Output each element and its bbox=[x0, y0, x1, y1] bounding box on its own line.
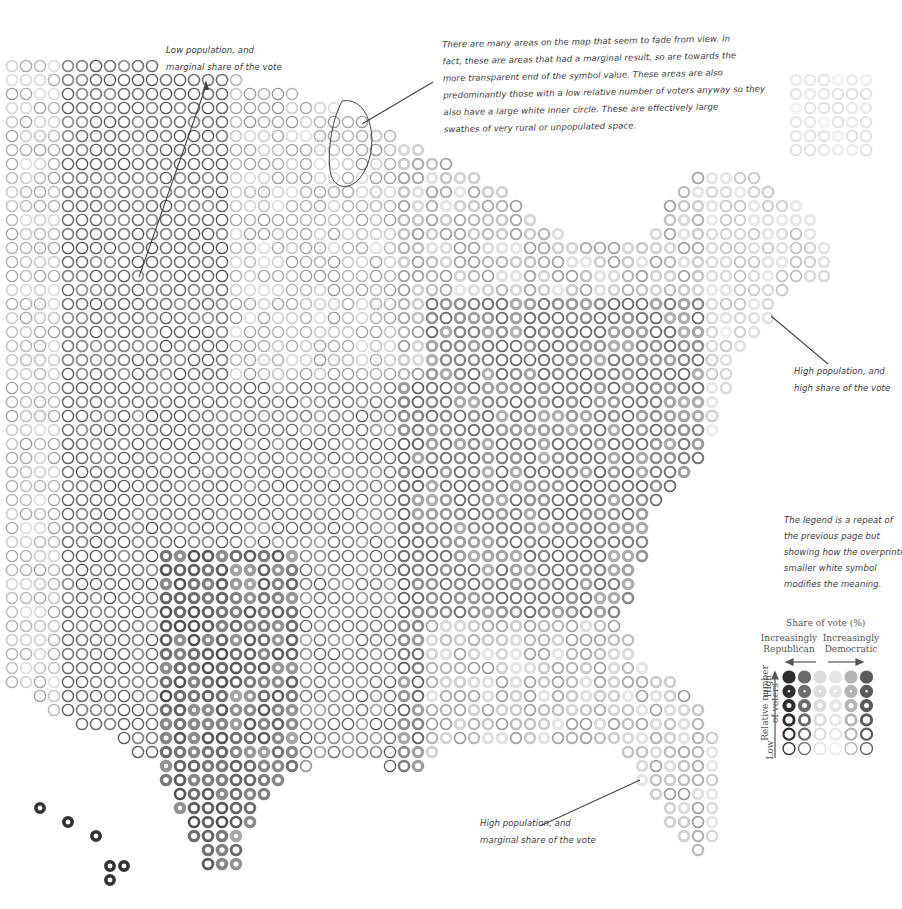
map-dot bbox=[511, 425, 521, 435]
map-dot bbox=[483, 467, 492, 476]
map-dot bbox=[272, 102, 283, 113]
map-dot bbox=[595, 593, 604, 602]
map-dot bbox=[427, 285, 437, 295]
map-dot bbox=[455, 229, 466, 240]
map-dot bbox=[777, 201, 787, 211]
map-dot bbox=[34, 368, 45, 379]
map-dot bbox=[62, 214, 73, 225]
map-dot bbox=[90, 158, 101, 169]
map-dot bbox=[679, 201, 689, 211]
map-dot bbox=[176, 636, 185, 645]
map-dot bbox=[370, 354, 381, 365]
map-dot bbox=[315, 621, 326, 632]
map-dot bbox=[539, 243, 550, 254]
map-dot bbox=[132, 592, 143, 603]
map-dot bbox=[455, 509, 465, 519]
map-dot bbox=[441, 257, 451, 267]
map-dot bbox=[91, 411, 102, 422]
map-dot bbox=[189, 621, 199, 631]
map-dot bbox=[427, 243, 436, 252]
map-dot bbox=[62, 704, 73, 715]
map-dot bbox=[7, 117, 18, 128]
map-dot bbox=[371, 341, 382, 352]
map-dot bbox=[385, 187, 396, 198]
map-dot bbox=[609, 719, 620, 730]
map-dot bbox=[104, 466, 115, 477]
map-dot bbox=[188, 172, 199, 183]
map-dot bbox=[693, 299, 703, 309]
map-dot bbox=[665, 817, 675, 827]
map-dot bbox=[6, 130, 17, 141]
map-dot bbox=[749, 285, 759, 295]
map-dot bbox=[260, 748, 269, 757]
map-dot bbox=[160, 480, 171, 491]
map-dot bbox=[328, 270, 339, 281]
map-dot bbox=[246, 594, 255, 603]
map-dot bbox=[553, 677, 564, 688]
map-dot bbox=[203, 593, 212, 602]
map-dot bbox=[20, 382, 31, 393]
map-dot bbox=[777, 215, 786, 224]
map-dot bbox=[132, 74, 143, 85]
map-dot bbox=[49, 677, 60, 688]
map-dot bbox=[693, 747, 703, 757]
map-dot bbox=[413, 523, 423, 533]
map-dot bbox=[595, 509, 605, 519]
map-dot bbox=[539, 649, 550, 660]
map-dot bbox=[48, 186, 59, 197]
map-dot bbox=[62, 676, 73, 687]
map-dot bbox=[147, 103, 158, 114]
map-dot bbox=[118, 578, 129, 589]
legend-symbol bbox=[830, 729, 841, 740]
map-dot bbox=[567, 425, 576, 434]
map-dot bbox=[483, 257, 493, 267]
map-dot bbox=[7, 313, 18, 324]
map-dot bbox=[637, 383, 647, 393]
map-dot bbox=[370, 312, 381, 323]
map-dot bbox=[399, 271, 409, 281]
map-dot bbox=[132, 466, 143, 477]
map-dot bbox=[286, 424, 297, 435]
map-dot bbox=[511, 579, 521, 589]
map-dot bbox=[132, 102, 143, 113]
map-dot bbox=[77, 705, 88, 716]
map-dot bbox=[6, 396, 17, 407]
map-dot bbox=[20, 620, 31, 631]
map-dot bbox=[525, 593, 535, 603]
map-dot bbox=[230, 116, 241, 127]
map-dot bbox=[230, 480, 241, 491]
map-dot bbox=[791, 271, 802, 282]
map-dot bbox=[679, 271, 690, 282]
map-dot bbox=[441, 299, 451, 309]
map-dot bbox=[203, 831, 213, 841]
map-dot bbox=[356, 284, 367, 295]
map-dot bbox=[455, 173, 465, 183]
map-dot bbox=[441, 593, 451, 603]
map-dot bbox=[469, 579, 480, 590]
map-dot bbox=[777, 229, 787, 239]
map-dot bbox=[189, 691, 198, 700]
map-dot bbox=[315, 159, 326, 170]
map-dot bbox=[133, 117, 144, 128]
map-dot bbox=[160, 88, 171, 99]
map-dot bbox=[160, 326, 171, 337]
map-dot bbox=[62, 494, 73, 505]
map-dot bbox=[370, 592, 381, 603]
map-dot bbox=[567, 271, 578, 282]
map-dot bbox=[104, 116, 115, 127]
map-dot bbox=[216, 284, 227, 295]
map-dot bbox=[483, 271, 494, 282]
map-dot bbox=[90, 662, 101, 673]
map-dot bbox=[6, 480, 17, 491]
map-dot bbox=[483, 705, 494, 716]
map-dot bbox=[218, 720, 227, 729]
map-dot bbox=[48, 200, 59, 211]
map-dot bbox=[342, 592, 353, 603]
map-dot bbox=[525, 439, 535, 449]
map-dot bbox=[230, 242, 241, 253]
map-dot bbox=[497, 285, 507, 295]
map-dot bbox=[441, 481, 451, 491]
map-dot bbox=[399, 621, 409, 631]
map-dot bbox=[63, 187, 74, 198]
map-dot bbox=[525, 537, 535, 547]
